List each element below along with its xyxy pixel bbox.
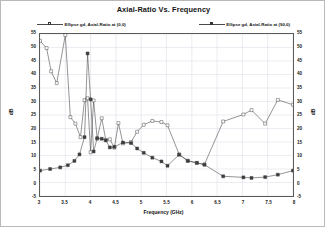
series-line-0	[40, 35, 293, 164]
data-point	[264, 122, 267, 125]
y-tick-label-right: 35	[297, 85, 311, 90]
data-point	[151, 156, 154, 159]
data-point	[276, 173, 279, 176]
data-point	[92, 99, 95, 102]
data-point	[40, 169, 41, 172]
data-point	[292, 103, 293, 106]
y-tick-label-right: 0	[297, 181, 311, 186]
data-point	[151, 119, 154, 122]
y-tick-label-left: -5	[22, 194, 36, 199]
data-point	[73, 159, 76, 162]
data-point	[130, 142, 133, 145]
data-point	[250, 176, 253, 179]
y-tick-label-left: 0	[22, 181, 36, 186]
data-point	[160, 160, 163, 163]
x-tick-label: 3.5	[55, 200, 75, 205]
data-point	[79, 136, 82, 139]
y-tick-label-right: 50	[297, 44, 311, 49]
data-point	[89, 98, 92, 101]
chart-figure: Axial-Ratio Vs. Frequency Ellipse gd, Ax…	[0, 0, 325, 227]
y-tick-label-right: 30	[297, 99, 311, 104]
data-point	[45, 47, 48, 50]
data-point	[113, 145, 116, 148]
x-tick-label: 6	[182, 200, 202, 205]
data-point	[89, 151, 92, 154]
x-tick-label: 6.5	[208, 200, 228, 205]
y-tick-label-right: 15	[297, 140, 311, 145]
chart-legend: Ellipse gd, Axial-Ratio at (0,0) Ellipse…	[31, 18, 296, 30]
y-axis-label-left: dB	[8, 105, 14, 119]
data-point	[222, 120, 225, 123]
y-tick-label-right: 10	[297, 153, 311, 158]
chart-title: Axial-Ratio Vs. Frequency	[1, 5, 325, 14]
legend-entry-series-1[interactable]: Ellipse gd, Axial-Ratio at (90,0)	[199, 21, 290, 28]
data-point	[40, 39, 41, 42]
x-tick-label: 4.5	[106, 200, 126, 205]
y-axis-label-right: dB	[310, 105, 316, 119]
data-point	[117, 122, 120, 125]
legend-marker-series-0	[37, 21, 63, 28]
x-tick-label: 7	[233, 200, 253, 205]
x-tick-label: 4	[80, 200, 100, 205]
data-series-layer	[40, 34, 293, 196]
y-tick-label-right: -5	[297, 194, 311, 199]
data-point	[104, 139, 107, 142]
data-point	[195, 161, 198, 164]
legend-label-series-1: Ellipse gd, Axial-Ratio at (90,0)	[226, 22, 290, 27]
x-tick-label: 5.5	[157, 200, 177, 205]
data-point	[83, 136, 86, 139]
y-tick-label-right: 20	[297, 126, 311, 131]
data-point	[55, 82, 58, 85]
data-point	[292, 169, 293, 172]
y-tick-label-left: 25	[22, 112, 36, 117]
y-tick-label-right: 5	[297, 167, 311, 172]
x-tick-label: 7.5	[259, 200, 279, 205]
data-point	[178, 153, 181, 156]
y-tick-label-left: 35	[22, 85, 36, 90]
data-point	[78, 153, 81, 156]
data-point	[166, 124, 169, 127]
legend-label-series-0: Ellipse gd, Axial-Ratio at (0,0)	[65, 22, 126, 27]
data-point	[250, 109, 253, 112]
y-tick-label-left: 20	[22, 126, 36, 131]
data-point	[86, 97, 89, 100]
data-point	[160, 121, 163, 124]
data-point	[186, 159, 189, 162]
data-point	[136, 130, 139, 133]
x-tick-label: 8	[284, 200, 304, 205]
data-point	[50, 70, 53, 73]
data-point	[242, 113, 245, 116]
data-point	[66, 164, 69, 167]
data-point	[74, 122, 77, 125]
data-point	[64, 34, 67, 37]
y-tick-label-left: 50	[22, 44, 36, 49]
x-tick-label: 3	[29, 200, 49, 205]
data-point	[92, 150, 95, 153]
data-point	[100, 117, 103, 120]
x-tick-label: 5	[131, 200, 151, 205]
x-axis-label: Frequency (GHz)	[1, 209, 325, 215]
y-tick-label-right: 40	[297, 71, 311, 76]
y-tick-label-left: 55	[22, 30, 36, 35]
data-point	[96, 137, 99, 140]
data-point	[100, 137, 103, 140]
data-point	[108, 138, 111, 141]
series-line-1	[40, 53, 293, 177]
y-tick-label-right: 45	[297, 58, 311, 63]
data-point	[276, 98, 279, 101]
y-tick-label-left: 10	[22, 153, 36, 158]
data-point	[69, 116, 72, 119]
y-tick-label-left: 15	[22, 140, 36, 145]
y-tick-label-left: 30	[22, 99, 36, 104]
y-tick-label-right: 55	[297, 30, 311, 35]
data-point	[203, 163, 206, 166]
data-point	[86, 52, 89, 55]
y-tick-label-right: 25	[297, 112, 311, 117]
data-point	[121, 141, 124, 144]
y-tick-label-left: 45	[22, 58, 36, 63]
data-point	[108, 146, 111, 149]
legend-entry-series-0[interactable]: Ellipse gd, Axial-Ratio at (0,0)	[37, 21, 126, 28]
data-point	[136, 147, 139, 150]
data-point	[242, 176, 245, 179]
data-point	[222, 175, 225, 178]
